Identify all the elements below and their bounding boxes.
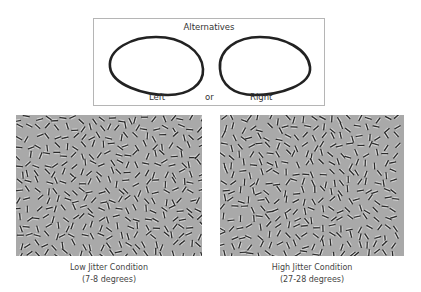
gabor-element [393, 226, 399, 232]
gabor-element [356, 134, 362, 138]
gabor-element [328, 206, 334, 212]
gabor-element [295, 234, 301, 240]
gabor-element [70, 152, 76, 158]
gabor-element [38, 152, 43, 159]
gabor-element [301, 224, 307, 227]
gabor-element [285, 115, 291, 120]
gabor-element [126, 233, 130, 239]
gabor-element [195, 242, 201, 248]
gabor-element [195, 197, 200, 204]
gabor-element [384, 132, 389, 138]
gabor-element [80, 183, 86, 186]
gabor-element [116, 207, 122, 210]
gabor-element [179, 240, 185, 246]
gabor-element [82, 244, 87, 251]
gabor-element [256, 115, 260, 120]
gabor-element [43, 151, 49, 155]
gabor-element [329, 223, 335, 227]
gabor-element [181, 253, 185, 256]
gabor-element [80, 169, 84, 176]
gabor-field-low [16, 115, 202, 256]
gabor-element [71, 176, 77, 182]
gabor-element [285, 133, 292, 138]
gabor-element [276, 143, 280, 150]
gabor-element [292, 209, 298, 215]
gabor-element [21, 172, 24, 178]
gabor-element [348, 163, 353, 170]
gabor-element [141, 241, 146, 248]
gabor-element [337, 209, 344, 214]
gabor-element [179, 218, 185, 222]
gabor-element [230, 180, 236, 186]
gabor-element [393, 197, 399, 200]
gabor-element [91, 140, 95, 147]
gabor-element [99, 190, 105, 194]
gabor-element [60, 180, 67, 184]
gabor-element [231, 171, 235, 178]
gabor-element [114, 125, 120, 131]
gabor-element [330, 143, 336, 148]
gabor-element [100, 125, 106, 131]
gabor-element [329, 239, 332, 245]
gabor-element [321, 225, 324, 231]
gabor-element [80, 126, 86, 132]
gabor-element [228, 219, 234, 222]
gabor-element [245, 235, 252, 240]
gabor-element [116, 223, 119, 229]
gabor-element [169, 204, 176, 209]
gabor-element [375, 235, 381, 239]
gabor-element [268, 231, 271, 237]
gabor-element [16, 197, 21, 203]
gabor-element [365, 116, 371, 120]
gabor-element [34, 233, 40, 237]
gabor-element [115, 168, 121, 174]
gabor-element [37, 206, 43, 212]
gabor-element [53, 206, 57, 212]
gabor-element [57, 222, 60, 228]
gabor-element [33, 217, 39, 220]
gabor-element [73, 214, 79, 220]
gabor-element [357, 178, 363, 184]
gabor-element [339, 122, 344, 129]
gabor-element [153, 227, 159, 230]
gabor-element [173, 239, 179, 245]
gabor-element [17, 178, 23, 184]
gabor-element [79, 251, 83, 256]
gabor-element [165, 200, 168, 206]
gabor-element [220, 152, 225, 158]
gabor-element [377, 170, 383, 176]
gabor-element [179, 168, 186, 173]
gabor-element [153, 127, 159, 131]
gabor-element [340, 226, 343, 232]
gabor-element [178, 224, 184, 230]
gabor-element [337, 194, 341, 201]
gabor-element [367, 249, 370, 255]
gabor-element [282, 125, 288, 129]
gabor-element [257, 235, 263, 241]
gabor-element [364, 233, 369, 239]
gabor-element [278, 127, 283, 134]
gabor-element [252, 188, 256, 194]
gabor-element [98, 207, 105, 212]
gabor-element [150, 234, 156, 240]
gabor-element [54, 151, 60, 154]
gabor-element [106, 235, 112, 240]
gabor-element [285, 232, 291, 238]
gabor-element [106, 242, 112, 248]
gabor-element [60, 204, 66, 210]
gabor-element [313, 186, 316, 192]
gabor-element [151, 136, 156, 143]
gabor-element [300, 250, 306, 253]
gabor-element [128, 118, 133, 125]
gabor-element [187, 162, 191, 168]
gabor-element [311, 116, 317, 122]
gabor-element [161, 159, 167, 164]
gabor-element [143, 250, 149, 256]
gabor-element [393, 131, 399, 137]
gabor-element [302, 132, 308, 138]
gabor-element [294, 134, 300, 140]
gabor-element [69, 115, 76, 119]
gabor-element [120, 232, 124, 238]
gabor-element [237, 144, 243, 150]
gabor-element [221, 180, 227, 185]
